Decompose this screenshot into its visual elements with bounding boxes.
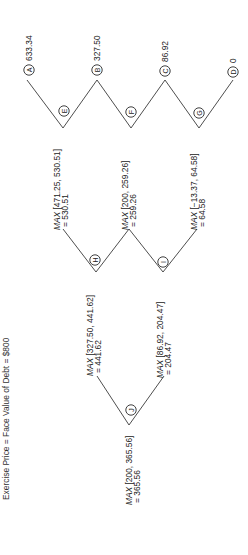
edge-path-top	[27, 80, 233, 128]
edges-mid-level	[63, 229, 197, 272]
node-C: C 86.92	[160, 41, 170, 77]
node-D-value: 0	[228, 58, 238, 63]
node-B-value: 327.50	[92, 35, 102, 61]
node-B-letter: B	[94, 67, 101, 72]
node-F-result: = 259.26	[128, 194, 138, 227]
node-I: I MAX [86.92, 204.47] = 204.47	[155, 257, 173, 378]
edges-bottom-level	[97, 376, 164, 425]
edge-path-bottom	[97, 376, 164, 425]
node-I-result: = 204.47	[163, 342, 173, 375]
node-C-value: 86.92	[160, 41, 170, 62]
node-H-letter: H	[92, 257, 99, 262]
node-B: B 327.50	[92, 35, 102, 75]
node-H-result: = 441.62	[93, 340, 103, 373]
node-E-letter: E	[61, 108, 68, 113]
node-F-letter: F	[128, 110, 135, 114]
node-C-letter: C	[162, 68, 169, 73]
edge-path-mid	[63, 229, 197, 272]
node-D-letter: D	[230, 69, 237, 74]
node-J-letter: J	[128, 408, 135, 412]
exercise-price-caption: Exercise Price = Face Value of Debt = $8…	[1, 337, 11, 500]
node-A-letter: A	[26, 67, 33, 72]
node-E: E MAX [471.25, 530.51] = 530.51	[52, 106, 70, 230]
edges-top-level	[27, 80, 233, 128]
node-D: D 0	[228, 58, 238, 77]
node-G-letter: G	[196, 110, 203, 115]
node-E-result: = 530.51	[60, 194, 70, 227]
node-I-letter: I	[160, 261, 167, 263]
node-J-result: = 365.56	[132, 470, 142, 503]
binomial-tree-diagram: Exercise Price = Face Value of Debt = $8…	[0, 0, 248, 555]
node-A: A 633.34	[24, 35, 34, 75]
node-H: H MAX [327.50, 441.62] = 441.62	[85, 255, 103, 376]
node-G-result: = 64.58	[197, 198, 207, 227]
node-A-value: 633.34	[24, 35, 34, 61]
